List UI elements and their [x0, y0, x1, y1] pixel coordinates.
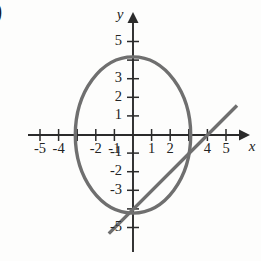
- y-tick-label-5: 5: [115, 32, 122, 48]
- y-tick-label--3: -3: [110, 181, 122, 197]
- x-tick-label-4: 4: [204, 140, 212, 156]
- graph-figure: ): [0, 0, 261, 261]
- x-tick-label--5: -5: [34, 140, 46, 156]
- y-tick-label-3: 3: [115, 69, 122, 85]
- y-axis-label: y: [115, 6, 124, 22]
- x-tick-label--4: -4: [53, 140, 66, 156]
- x-tick-label-5: 5: [222, 140, 229, 156]
- y-tick-label-1: 1: [115, 106, 122, 122]
- y-tick-label--5: -5: [110, 218, 122, 234]
- y-tick-label-2: 2: [115, 88, 122, 104]
- line-curve: [109, 106, 237, 234]
- x-tick-label-1: 1: [148, 140, 155, 156]
- x-tick-label-2: 2: [167, 140, 174, 156]
- axes-group: [28, 12, 250, 252]
- coordinate-plane-graph: -5 -4 -2 -1 1 2 4 5 5 3 2 1 -1 -2 -3 -5 …: [0, 0, 261, 261]
- x-axis-label: x: [248, 138, 256, 154]
- y-axis-arrow-icon: [128, 12, 139, 23]
- y-tick-label--2: -2: [110, 162, 122, 178]
- y-tick-label--1: -1: [110, 143, 122, 159]
- x-tick-label--2: -2: [90, 140, 102, 156]
